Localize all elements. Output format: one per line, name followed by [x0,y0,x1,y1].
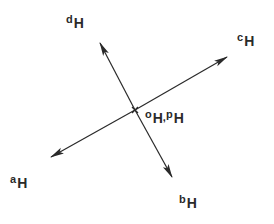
label-c: cH [237,28,254,44]
label-b-sub: H [187,195,197,211]
vector-d [100,43,135,110]
label-origin: oH,pH [145,105,184,121]
label-a-sub: H [17,175,27,191]
label-p-sub: H [174,110,184,126]
origin-point [132,107,138,113]
label-o-base: o [145,108,152,120]
label-a: aH [10,170,27,186]
label-d-base: d [66,13,73,25]
label-c-base: c [237,31,243,43]
label-d: dH [66,10,84,26]
label-a-base: a [10,173,16,185]
label-c-sub: H [244,33,254,49]
label-o-sub: H [153,110,163,126]
label-p-base: p [166,108,173,120]
vector-c [135,57,227,110]
label-b: bH [179,190,197,206]
label-d-sub: H [74,15,84,31]
label-origin-separator: , [163,111,166,123]
vector-a [51,110,135,157]
label-b-base: b [179,193,186,205]
vector-diagram [0,0,274,224]
